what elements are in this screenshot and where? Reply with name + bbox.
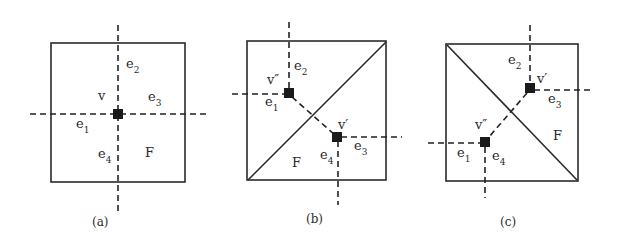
edge-label-e4: e4 bbox=[98, 146, 112, 165]
vertex-v-double-prime-marker bbox=[480, 137, 490, 147]
vertex-v-marker bbox=[113, 109, 123, 119]
figure-canvas: v e2 e3 e1 e4 F (a) v″ v′ e2 e1 e3 e4 F … bbox=[0, 0, 621, 246]
vertex-label-v-prime: v′ bbox=[536, 71, 547, 86]
face-label-f: F bbox=[292, 155, 301, 170]
vertex-v-prime-marker bbox=[525, 83, 535, 93]
edge-label-e1: e1 bbox=[265, 94, 278, 113]
face-label-f: F bbox=[553, 128, 562, 143]
vertex-label-v-double-prime: v″ bbox=[266, 72, 279, 87]
edge-label-e4: e4 bbox=[320, 147, 334, 166]
edge-label-e3: e3 bbox=[548, 91, 562, 110]
vertex-v-double-prime-marker bbox=[284, 88, 294, 98]
panel-c: v′ v″ e2 e3 e1 e4 F (c) bbox=[428, 25, 593, 229]
panel-b-diagonal bbox=[248, 42, 386, 180]
panel-b: v″ v′ e2 e1 e3 e4 F (b) bbox=[232, 22, 402, 226]
panel-c-dashed-connector bbox=[489, 93, 527, 137]
edge-label-e1: e1 bbox=[457, 145, 470, 164]
edge-label-e4: e4 bbox=[492, 148, 506, 167]
panel-caption-b: (b) bbox=[306, 212, 323, 226]
edge-label-e3: e3 bbox=[354, 138, 368, 157]
vertex-label-v-prime: v′ bbox=[337, 117, 348, 132]
edge-label-e1: e1 bbox=[76, 116, 89, 135]
vertex-label-v: v bbox=[97, 88, 106, 103]
face-label-f: F bbox=[145, 145, 154, 160]
edge-label-e2: e2 bbox=[126, 56, 139, 75]
vertex-label-v-double-prime: v″ bbox=[474, 117, 487, 132]
panel-caption-a: (a) bbox=[92, 215, 109, 229]
panel-caption-c: (c) bbox=[500, 215, 516, 229]
edge-label-e2: e2 bbox=[294, 58, 307, 77]
edge-label-e3: e3 bbox=[148, 89, 162, 108]
vertex-v-prime-marker bbox=[332, 132, 342, 142]
edge-label-e2: e2 bbox=[508, 52, 521, 71]
panel-a: v e2 e3 e1 e4 F (a) bbox=[30, 25, 210, 229]
